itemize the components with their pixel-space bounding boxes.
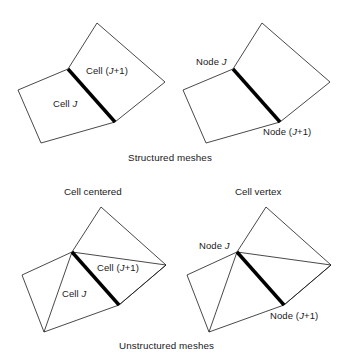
- node-jp1-label-structured: Node (J+1): [263, 126, 311, 137]
- cell-jp1-label-unstructured: Cell (J+1): [97, 262, 139, 273]
- unstructured-meshes-caption: Unstructured meshes: [119, 340, 214, 352]
- mesh-diagram-svg: [0, 0, 346, 362]
- node-j-label-structured: Node J: [196, 56, 227, 67]
- panel-structured-cell-centered: [18, 23, 165, 143]
- cell-j-label-unstructured: Cell J: [62, 288, 86, 299]
- panel-unstructured-cell-centered: [22, 207, 166, 332]
- mesh-types-figure: Cell J Cell (J+1) Node J Node (J+1) Stru…: [0, 0, 346, 362]
- cell-j-label-structured: Cell J: [53, 98, 77, 109]
- node-jp1-label-unstructured: Node (J+1): [270, 310, 318, 321]
- cell-jp1-label-structured: Cell (J+1): [86, 65, 128, 76]
- structured-meshes-caption: Structured meshes: [128, 152, 212, 164]
- node-j-label-unstructured: Node J: [199, 240, 230, 251]
- cell-vertex-title: Cell vertex: [235, 186, 281, 198]
- cell-centered-title: Cell centered: [64, 186, 122, 198]
- panel-structured-cell-vertex: [183, 23, 330, 143]
- unstructured-left-fill: [22, 207, 166, 332]
